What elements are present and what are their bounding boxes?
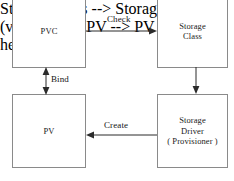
edge-check-label: Check bbox=[107, 14, 131, 24]
node-pvc[interactable]: PVC bbox=[12, 0, 86, 68]
node-storage-driver-label-line-1: Storage bbox=[179, 115, 206, 126]
node-pv-label-line-1: PV bbox=[43, 126, 54, 137]
node-pv[interactable]: PV bbox=[12, 94, 86, 168]
node-storage-class[interactable]: Storage Class bbox=[157, 0, 228, 68]
diagram-canvas: PVC Storage Class PV Storage Driver ( Pr… bbox=[0, 0, 234, 181]
node-storage-driver-label-line-3: ( Provisioner ) bbox=[167, 136, 218, 147]
edge-storage-class-to-driver-arrow bbox=[190, 67, 202, 95]
node-storage-driver-label-line-2: Driver bbox=[181, 126, 204, 137]
edge-create-arrow bbox=[86, 129, 158, 141]
node-pvc-label-line-1: PVC bbox=[41, 26, 58, 37]
edge-bind-label: Bind bbox=[51, 74, 69, 84]
node-storage-class-label-line-2: Class bbox=[183, 31, 202, 42]
edge-check-arrow bbox=[86, 25, 158, 37]
node-storage-driver[interactable]: Storage Driver ( Provisioner ) bbox=[157, 94, 228, 168]
edge-create-label: Create bbox=[104, 120, 128, 130]
node-storage-class-label-line-1: Storage bbox=[179, 21, 206, 32]
